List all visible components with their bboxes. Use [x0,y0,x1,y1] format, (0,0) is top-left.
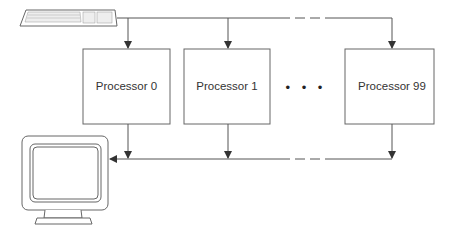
output-bus [110,124,392,159]
input-bus [117,18,392,48]
processor-box-0: Processor 0 [83,49,170,124]
processor-label: Processor 1 [196,80,257,92]
processor-box-1: Processor 1 [184,49,270,124]
processor-label: Processor 0 [96,80,157,92]
processor-box-99: Processor 99 [345,49,434,124]
monitor-icon [22,136,108,224]
diagram-canvas: Processor 0 Processor 1 • • • Processor … [0,0,449,233]
keyboard-icon [20,10,117,26]
processor-label: Processor 99 [358,80,426,92]
ellipsis: • • • [286,80,327,95]
